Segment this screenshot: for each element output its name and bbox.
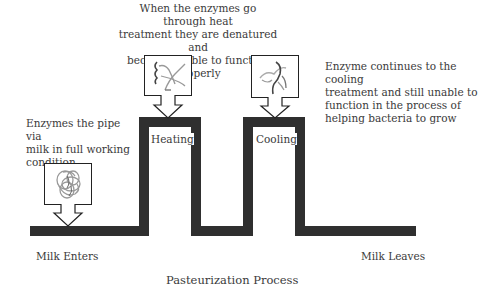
denatured-enzyme-icon <box>252 56 300 99</box>
heating-label: Heating <box>151 133 194 145</box>
pipe-outlet <box>295 226 416 236</box>
arrow-down-icon <box>153 95 183 119</box>
cool-annotation-line: treatment and still unable to <box>325 86 485 99</box>
pipe-inlet <box>30 226 149 236</box>
arrow-down-icon <box>53 204 83 227</box>
denatured-enzyme-icon <box>145 56 193 97</box>
pipe-heating-up <box>139 117 149 236</box>
cool-annotation-line: helping bacteria to grow <box>325 112 485 125</box>
heat-annotation-line: treatment they are denatured and <box>118 28 278 54</box>
start-annotation: Enzymes the pipe via milk in full workin… <box>26 117 136 169</box>
cool-annotation-line: function in the process of <box>325 99 485 112</box>
coiled-enzyme-icon <box>45 164 93 206</box>
pipe-cooling-up <box>243 117 253 236</box>
cooling-label: Cooling <box>256 133 297 145</box>
diagram-title: Pasteurization Process <box>166 274 298 287</box>
milk-leaves-label: Milk Leaves <box>361 250 425 263</box>
cool-annotation-line: Enzyme continues to the cooling <box>325 60 485 86</box>
start-annotation-line: Enzymes the pipe via <box>26 117 136 143</box>
heat-annotation-line: When the enzymes go through heat <box>118 2 278 28</box>
cool-annotation: Enzyme continues to the cooling treatmen… <box>325 60 485 125</box>
start-annotation-line: milk in full working <box>26 143 136 156</box>
denatured-enzyme-box-heating <box>144 55 192 96</box>
active-enzyme-box <box>44 163 92 205</box>
milk-enters-label: Milk Enters <box>36 250 98 263</box>
arrow-down-icon <box>260 97 290 119</box>
denatured-enzyme-box-cooling <box>251 55 299 98</box>
